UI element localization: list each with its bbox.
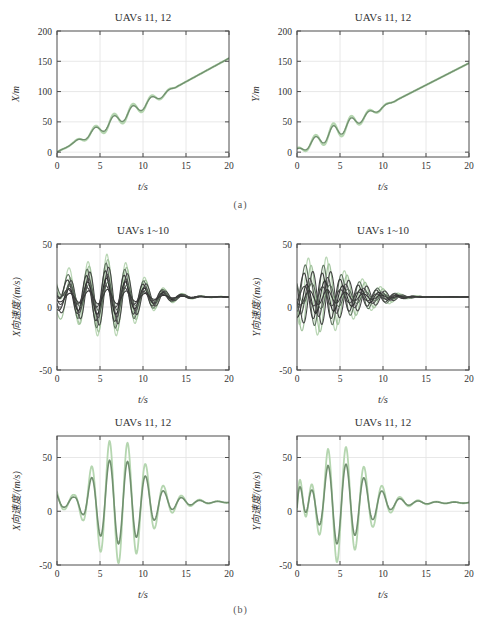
x-tick-label: 20 <box>224 161 234 171</box>
y-tick-label: 50 <box>283 453 293 463</box>
x-tick-label: 20 <box>464 374 474 384</box>
y-tick-label: -50 <box>39 561 52 571</box>
x-tick-label: 15 <box>421 569 431 579</box>
subplot-y-velocity-uav1-10: UAVs 1~10 Y向速度/(m/s) t/s 05101520-50050 <box>240 225 481 410</box>
y-tick-label: 0 <box>287 148 292 158</box>
x-tick-label: 20 <box>464 161 474 171</box>
plot-canvas: 05101520-50050 <box>0 410 241 628</box>
x-tick-label: 15 <box>421 161 431 171</box>
x-tick-label: 0 <box>55 161 60 171</box>
subplot-y-position-uav11-12: UAVs 11, 12 Y/m t/s 05101520050100150200 <box>240 0 481 212</box>
x-tick-label: 10 <box>138 374 148 384</box>
x-tick-label: 15 <box>421 374 431 384</box>
x-tick-label: 15 <box>181 374 191 384</box>
x-tick-label: 15 <box>181 569 191 579</box>
x-tick-label: 0 <box>295 161 300 171</box>
x-tick-label: 5 <box>98 374 103 384</box>
x-tick-label: 20 <box>224 374 234 384</box>
x-tick-label: 5 <box>98 569 103 579</box>
y-tick-label: 200 <box>38 27 53 37</box>
x-tick-label: 10 <box>138 569 148 579</box>
x-tick-label: 20 <box>464 569 474 579</box>
x-tick-label: 5 <box>338 374 343 384</box>
x-tick-label: 0 <box>55 374 60 384</box>
y-tick-label: 50 <box>43 453 53 463</box>
y-tick-label: 100 <box>278 87 293 97</box>
plot-canvas: 05101520050100150200 <box>0 0 241 212</box>
y-tick-label: 0 <box>47 507 52 517</box>
x-tick-label: 15 <box>181 161 191 171</box>
plot-canvas: 05101520050100150200 <box>240 0 481 212</box>
x-tick-label: 5 <box>98 161 103 171</box>
x-tick-label: 5 <box>338 161 343 171</box>
subplot-x-velocity-uav11-12: UAVs 11, 12 X向速度/(m/s) t/s 05101520-5005… <box>0 410 241 628</box>
plot-canvas: 05101520-50050 <box>240 225 481 410</box>
x-tick-label: 10 <box>378 374 388 384</box>
y-tick-label: 0 <box>47 303 52 313</box>
y-tick-label: 0 <box>47 148 52 158</box>
subplot-x-velocity-uav1-10: UAVs 1~10 X向速度/(m/s) t/s 05101520-50050 <box>0 225 241 410</box>
x-tick-label: 5 <box>338 569 343 579</box>
plot-canvas: 05101520-50050 <box>240 410 481 628</box>
subplot-x-position-uav11-12: UAVs 11, 12 X/m t/s 05101520050100150200 <box>0 0 241 212</box>
y-tick-label: -50 <box>279 366 292 376</box>
y-tick-label: 0 <box>287 507 292 517</box>
y-tick-label: 0 <box>287 303 292 313</box>
x-tick-label: 0 <box>55 569 60 579</box>
y-tick-label: -50 <box>279 561 292 571</box>
x-tick-label: 20 <box>224 569 234 579</box>
subplot-y-velocity-uav11-12: UAVs 11, 12 Y向速度/(m/s) t/s 05101520-5005… <box>240 410 481 628</box>
y-tick-label: 150 <box>38 57 53 67</box>
y-tick-label: 50 <box>43 117 53 127</box>
y-tick-label: 100 <box>38 87 53 97</box>
caption-a: (a) <box>0 199 481 210</box>
y-tick-label: 50 <box>43 240 53 250</box>
x-tick-label: 10 <box>378 569 388 579</box>
plot-canvas: 05101520-50050 <box>0 225 241 410</box>
caption-b: (b) <box>0 604 481 615</box>
y-tick-label: 200 <box>278 27 293 37</box>
y-tick-label: 150 <box>278 57 293 67</box>
y-tick-label: -50 <box>39 366 52 376</box>
uav-simulation-figure: UAVs 11, 12 X/m t/s 05101520050100150200… <box>0 0 481 628</box>
x-tick-label: 0 <box>295 569 300 579</box>
x-tick-label: 10 <box>138 161 148 171</box>
x-tick-label: 10 <box>378 161 388 171</box>
y-tick-label: 50 <box>283 117 293 127</box>
y-tick-label: 50 <box>283 240 293 250</box>
x-tick-label: 0 <box>295 374 300 384</box>
